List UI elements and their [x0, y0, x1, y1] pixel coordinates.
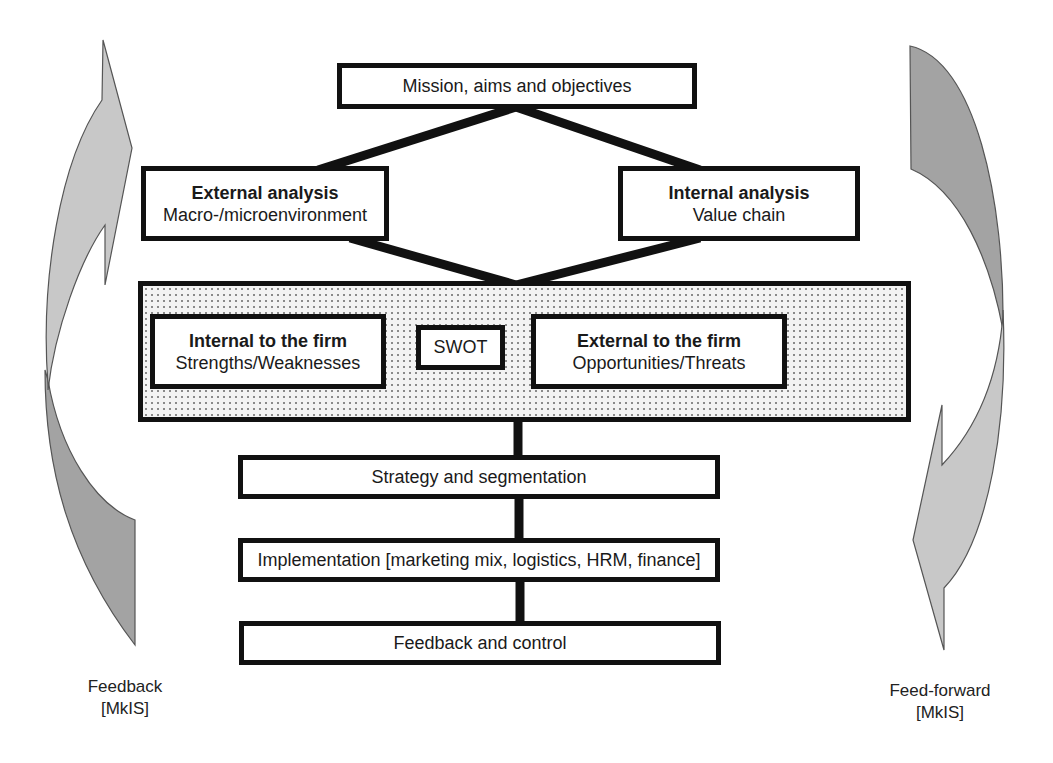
feedback-label-line1: Feedback — [60, 676, 190, 698]
feedback-arrow-icon — [45, 40, 135, 645]
external-analysis-subtitle: Macro-/microenvironment — [163, 204, 367, 226]
external-to-firm-title: External to the firm — [577, 330, 741, 352]
swot-label: SWOT — [434, 337, 488, 358]
step-label: Implementation [marketing mix, logistics… — [257, 550, 700, 571]
feedback-control-box: Feedback and control — [239, 621, 721, 665]
feed-forward-label-line1: Feed-forward — [870, 680, 1010, 702]
feedback-label: Feedback [MkIS] — [60, 676, 190, 720]
feed-forward-label-line2: [MkIS] — [870, 702, 1010, 724]
strategy-segmentation-box: Strategy and segmentation — [238, 455, 720, 499]
external-analysis-title: External analysis — [191, 182, 338, 204]
step-label: Strategy and segmentation — [371, 467, 586, 488]
internal-analysis-title: Internal analysis — [668, 182, 809, 204]
external-to-firm-box: External to the firm Opportunities/Threa… — [531, 314, 787, 389]
internal-to-firm-box: Internal to the firm Strengths/Weaknesse… — [150, 314, 386, 389]
internal-analysis-subtitle: Value chain — [693, 204, 786, 226]
vertical-connector — [518, 418, 520, 625]
internal-to-firm-title: Internal to the firm — [189, 330, 347, 352]
internal-to-firm-subtitle: Strengths/Weaknesses — [176, 352, 361, 374]
mission-box: Mission, aims and objectives — [337, 63, 697, 109]
feed-forward-arrow-icon — [910, 46, 1004, 650]
implementation-box: Implementation [marketing mix, logistics… — [238, 538, 720, 582]
mission-label: Mission, aims and objectives — [402, 76, 631, 97]
feed-forward-label: Feed-forward [MkIS] — [870, 680, 1010, 724]
internal-analysis-box: Internal analysis Value chain — [618, 166, 860, 241]
step-label: Feedback and control — [393, 633, 566, 654]
swot-box: SWOT — [416, 325, 505, 370]
feedback-label-line2: [MkIS] — [60, 698, 190, 720]
external-to-firm-subtitle: Opportunities/Threats — [572, 352, 745, 374]
external-analysis-box: External analysis Macro-/microenvironmen… — [141, 166, 389, 241]
